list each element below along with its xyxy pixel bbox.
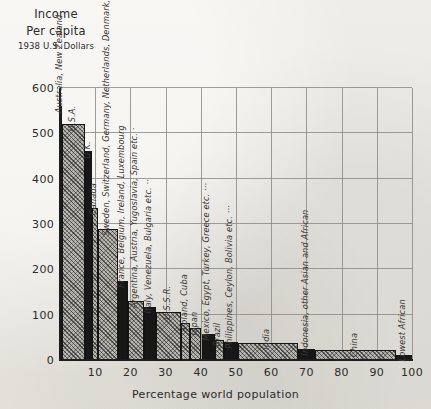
x-axis-tick-90: 90 <box>369 366 384 379</box>
y-axis-tick-0: 0 <box>10 354 54 367</box>
x-axis-line <box>59 359 413 361</box>
x-axis-tick-40: 40 <box>193 366 208 379</box>
plot-area <box>60 88 412 360</box>
chart-caption: Income Per capita 1938 U.S. Dollars <box>10 6 102 53</box>
x-axis-tick-10: 10 <box>88 366 103 379</box>
caption-line-3: 1938 U.S. Dollars <box>10 40 102 52</box>
bar <box>181 323 190 360</box>
bar <box>156 312 182 360</box>
x-axis-tick-100: 100 <box>401 366 423 379</box>
y-axis-tick-200: 200 <box>10 263 54 276</box>
y-axis-tick-500: 500 <box>10 127 54 140</box>
y-axis-line <box>59 88 61 360</box>
bar <box>144 307 155 360</box>
bar <box>128 301 145 360</box>
x-axis-tick-30: 30 <box>158 366 173 379</box>
caption-line-1: Income <box>10 6 102 23</box>
x-axis-tick-60: 60 <box>264 366 279 379</box>
bar <box>118 281 128 360</box>
bar <box>238 343 298 360</box>
gridline-vertical <box>412 88 413 360</box>
bar <box>202 334 215 360</box>
bar <box>190 328 201 360</box>
x-axis-title: Percentage world population <box>0 388 431 401</box>
y-axis-tick-labels: 0100200300400500600 <box>8 88 54 360</box>
y-axis-tick-100: 100 <box>10 308 54 321</box>
x-axis-tick-labels: 102030405060708090100 <box>60 366 412 384</box>
bar <box>215 340 224 360</box>
x-axis-tick-50: 50 <box>229 366 244 379</box>
x-axis-tick-80: 80 <box>334 366 349 379</box>
x-axis-tick-20: 20 <box>123 366 138 379</box>
bar <box>62 124 85 360</box>
y-axis-tick-600: 600 <box>10 82 54 95</box>
y-axis-tick-400: 400 <box>10 172 54 185</box>
x-axis-tick-70: 70 <box>299 366 314 379</box>
caption-line-2: Per capita <box>10 23 102 40</box>
bar-series <box>60 88 412 360</box>
y-axis-tick-300: 300 <box>10 218 54 231</box>
bar <box>224 342 238 360</box>
bar <box>98 229 118 360</box>
income-per-capita-chart: Income Per capita 1938 U.S. Dollars 0100… <box>0 0 431 409</box>
